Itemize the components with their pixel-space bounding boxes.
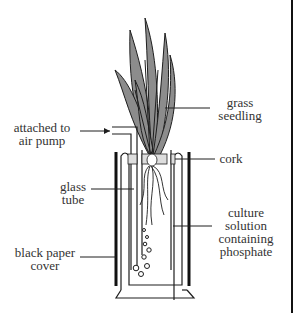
label-cork: cork [216, 152, 246, 165]
label-culture-solution: culture solution containing phosphate [214, 206, 278, 258]
roots [140, 166, 168, 225]
label-air-pump: attached to air pump [6, 121, 78, 147]
right-border [291, 0, 293, 313]
label-glass-tube: glass tube [55, 180, 91, 206]
cork [128, 154, 175, 166]
label-grass-seedling: grass seedling [210, 96, 270, 122]
label-black-paper-cover: black paper cover [8, 246, 82, 272]
